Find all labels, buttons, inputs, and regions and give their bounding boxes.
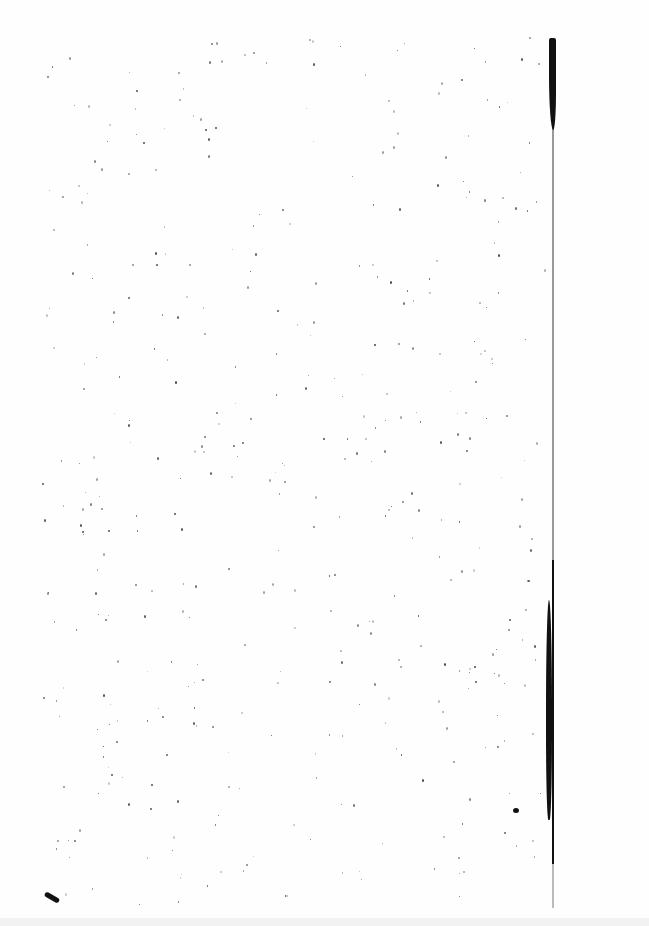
speck bbox=[242, 442, 244, 444]
speck bbox=[194, 682, 195, 683]
speck bbox=[129, 420, 130, 421]
speck bbox=[286, 895, 288, 897]
speck bbox=[237, 456, 238, 457]
speck bbox=[189, 264, 191, 266]
speck bbox=[462, 823, 463, 825]
speck bbox=[504, 832, 506, 834]
speck bbox=[215, 127, 217, 129]
speck bbox=[136, 134, 137, 135]
speck bbox=[97, 569, 98, 571]
speck bbox=[536, 442, 538, 445]
speck bbox=[88, 105, 90, 108]
speck bbox=[329, 734, 330, 736]
speck bbox=[411, 492, 413, 495]
speck bbox=[197, 664, 198, 665]
speck bbox=[474, 341, 475, 342]
speck bbox=[469, 191, 470, 193]
speck bbox=[340, 650, 342, 652]
speck bbox=[372, 264, 374, 266]
speck bbox=[309, 39, 311, 41]
speck bbox=[444, 663, 446, 666]
speck bbox=[150, 808, 152, 810]
speck bbox=[459, 483, 461, 485]
speck bbox=[162, 716, 164, 718]
speck bbox=[231, 476, 233, 478]
speck bbox=[194, 707, 195, 709]
speck bbox=[540, 793, 541, 794]
speck bbox=[315, 282, 317, 285]
speck bbox=[308, 375, 309, 376]
speck bbox=[54, 621, 55, 623]
scan-noise bbox=[40, 35, 550, 905]
speck bbox=[402, 501, 404, 503]
speck bbox=[221, 60, 223, 63]
speck bbox=[420, 421, 421, 423]
speck bbox=[44, 519, 46, 522]
speck bbox=[182, 610, 184, 613]
speck bbox=[499, 106, 500, 108]
speck bbox=[171, 661, 172, 663]
speck bbox=[239, 788, 240, 789]
speck bbox=[208, 155, 210, 158]
speck bbox=[235, 366, 236, 368]
speck bbox=[344, 458, 346, 460]
binding-shadow-top bbox=[549, 38, 556, 130]
speck bbox=[353, 804, 355, 807]
speck bbox=[496, 649, 497, 650]
speck bbox=[329, 575, 330, 577]
speck bbox=[498, 254, 500, 257]
speck bbox=[65, 893, 67, 896]
speck bbox=[282, 209, 284, 211]
speck bbox=[468, 135, 469, 137]
speck bbox=[132, 264, 134, 266]
speck bbox=[207, 885, 208, 887]
speck bbox=[457, 413, 458, 414]
speck bbox=[420, 645, 422, 647]
speck bbox=[277, 310, 279, 312]
speck bbox=[181, 874, 182, 875]
speck bbox=[253, 52, 255, 54]
speck bbox=[84, 363, 85, 365]
speck bbox=[485, 747, 486, 748]
speck bbox=[263, 591, 265, 594]
speck bbox=[103, 746, 104, 747]
speck bbox=[195, 585, 197, 588]
speck bbox=[473, 569, 475, 572]
speck bbox=[450, 391, 451, 392]
speck bbox=[484, 350, 486, 352]
speck bbox=[196, 725, 197, 727]
speck bbox=[79, 463, 80, 464]
binding-edge-line bbox=[552, 38, 554, 908]
speck bbox=[53, 347, 55, 349]
speck bbox=[204, 436, 206, 438]
speck bbox=[108, 615, 109, 616]
speck bbox=[494, 242, 495, 244]
speck bbox=[438, 92, 440, 95]
speck bbox=[143, 142, 145, 144]
speck bbox=[174, 513, 176, 515]
speck bbox=[502, 197, 504, 199]
speck bbox=[359, 871, 360, 872]
speck bbox=[352, 176, 353, 177]
speck bbox=[155, 169, 157, 171]
speck bbox=[92, 888, 93, 890]
speck bbox=[469, 798, 471, 801]
speck bbox=[507, 102, 508, 103]
speck bbox=[315, 496, 317, 499]
speck bbox=[429, 278, 430, 280]
speck bbox=[95, 592, 97, 595]
speck bbox=[193, 722, 195, 725]
speck bbox=[117, 660, 119, 663]
speck bbox=[475, 681, 477, 683]
speck bbox=[370, 632, 372, 635]
speck bbox=[468, 688, 469, 689]
speck bbox=[56, 700, 57, 702]
speck bbox=[188, 686, 189, 687]
speck bbox=[479, 302, 481, 304]
speck bbox=[397, 50, 398, 51]
speck bbox=[413, 300, 414, 302]
speck bbox=[47, 76, 49, 78]
speck bbox=[128, 173, 130, 175]
speck bbox=[522, 639, 523, 641]
speck bbox=[220, 871, 222, 873]
